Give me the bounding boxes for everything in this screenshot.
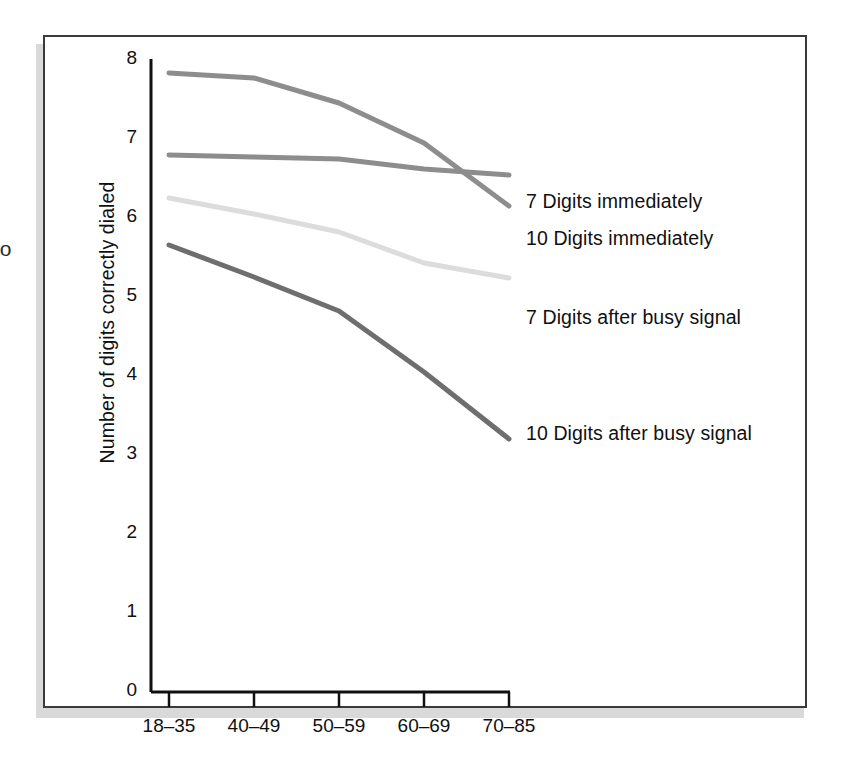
- figure-frame: Number of digits correctly dialed 8 7 6 …: [43, 35, 807, 708]
- y-tick-label-5: 5: [103, 284, 137, 306]
- y-tick-label-6: 6: [103, 205, 137, 227]
- line-chart-graphic: [45, 37, 809, 710]
- chart-plot-area: Number of digits correctly dialed 8 7 6 …: [45, 37, 809, 710]
- y-tick-label-0: 0: [103, 679, 137, 701]
- legend-label-10-digits-immediately: 10 Digits immediately: [526, 227, 713, 250]
- series-line-10-digits-immediately: [169, 155, 509, 175]
- legend-label-10-digits-after-busy-signal: 10 Digits after busy signal: [526, 422, 752, 445]
- x-tick-label-50-59: 50–59: [293, 715, 385, 737]
- x-tick-label-40-49: 40–49: [208, 715, 300, 737]
- y-tick-label-4: 4: [103, 363, 137, 385]
- legend-label-7-digits-immediately: 7 Digits immediately: [526, 190, 702, 213]
- y-tick-label-7: 7: [103, 126, 137, 148]
- x-tick-label-60-69: 60–69: [378, 715, 470, 737]
- y-tick-label-2: 2: [103, 521, 137, 543]
- series-line-10-digits-after-busy-signal: [169, 245, 509, 439]
- legend-label-7-digits-after-busy-signal: 7 Digits after busy signal: [526, 306, 741, 329]
- x-tick-label-18-35: 18–35: [123, 715, 215, 737]
- series-line-7-digits-immediately: [169, 73, 509, 206]
- y-tick-label-1: 1: [103, 600, 137, 622]
- x-tick-label-70-85: 70–85: [463, 715, 555, 737]
- y-tick-label-8: 8: [103, 47, 137, 69]
- y-tick-label-3: 3: [103, 442, 137, 464]
- cropped-edge-text-fragment: t o: [0, 236, 26, 262]
- x-axis-ticks: [169, 692, 509, 707]
